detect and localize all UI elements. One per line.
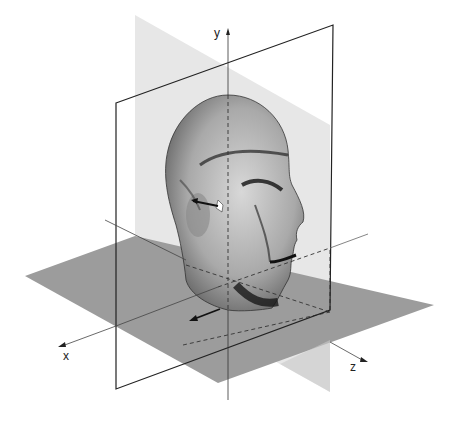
y-axis-label: y <box>214 26 220 40</box>
diagram-canvas: y x z <box>0 0 457 421</box>
x-axis-label: x <box>63 349 69 363</box>
planes-diagram: y x z <box>0 0 457 421</box>
z-axis-label: z <box>350 360 356 374</box>
